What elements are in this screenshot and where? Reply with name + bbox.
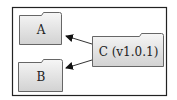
- node-label-c: C (v1.0.1): [93, 45, 164, 59]
- edge-c-to-a: [66, 36, 92, 44]
- node-label-b: B: [19, 70, 63, 84]
- node-label-a: A: [20, 23, 62, 37]
- edge-c-to-b: [66, 60, 92, 68]
